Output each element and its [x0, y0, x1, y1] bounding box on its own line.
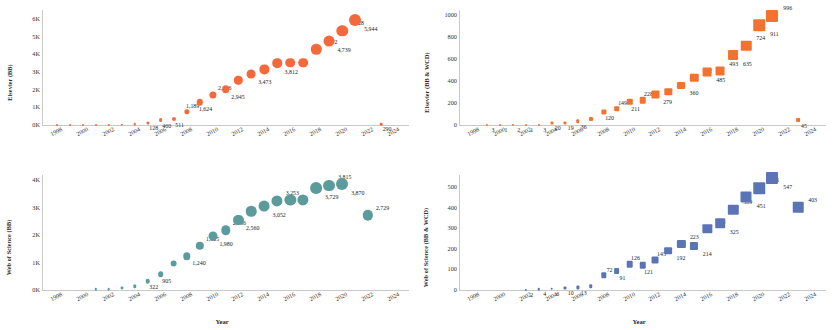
data-point[interactable] [614, 268, 620, 274]
data-point[interactable] [208, 231, 217, 240]
data-point[interactable] [363, 210, 373, 220]
data-point-label: 1 [530, 127, 533, 133]
data-point[interactable] [525, 124, 527, 126]
data-point[interactable] [550, 287, 553, 290]
data-point[interactable] [134, 123, 137, 126]
data-point[interactable] [285, 194, 296, 205]
data-point[interactable] [222, 86, 230, 94]
data-point-label: 2 [517, 127, 520, 133]
data-point[interactable] [195, 241, 203, 249]
data-point[interactable] [626, 261, 633, 268]
data-point[interactable] [716, 67, 725, 76]
data-point[interactable] [601, 273, 606, 278]
data-point[interactable] [690, 73, 698, 81]
data-point[interactable] [234, 76, 242, 84]
data-point[interactable] [563, 286, 566, 289]
data-point[interactable] [146, 121, 149, 124]
data-point[interactable] [753, 19, 765, 31]
data-point-label: 2,560 [246, 225, 259, 231]
data-point[interactable] [728, 205, 738, 215]
data-point[interactable] [298, 194, 309, 205]
x-tick-label: 2000 [75, 125, 89, 137]
x-tick-label: 2000 [492, 290, 506, 302]
data-point[interactable] [589, 117, 593, 121]
data-point-label: 13 [581, 290, 587, 296]
data-point[interactable] [145, 279, 150, 284]
data-point[interactable] [323, 180, 335, 192]
data-point[interactable] [259, 201, 270, 212]
data-point[interactable] [652, 91, 659, 98]
data-point[interactable] [703, 67, 712, 76]
data-point[interactable] [703, 224, 712, 233]
data-point[interactable] [272, 195, 283, 206]
data-point[interactable] [677, 240, 685, 248]
data-point[interactable] [766, 10, 778, 22]
data-point[interactable] [69, 124, 71, 126]
data-point[interactable] [120, 287, 123, 290]
data-point[interactable] [499, 124, 501, 126]
data-point[interactable] [183, 252, 190, 259]
y-tick-label: 1K [10, 103, 40, 110]
data-point[interactable] [133, 285, 137, 289]
data-point[interactable] [665, 88, 672, 95]
data-point[interactable] [324, 36, 335, 47]
x-tick-label: 2012 [230, 290, 244, 302]
data-point[interactable] [690, 242, 698, 250]
data-point[interactable] [286, 58, 296, 68]
data-point[interactable] [665, 247, 673, 255]
data-point[interactable] [56, 124, 58, 126]
data-point[interactable] [82, 124, 84, 126]
data-point[interactable] [753, 182, 765, 194]
data-point[interactable] [336, 178, 348, 190]
data-point[interactable] [221, 225, 230, 234]
data-point[interactable] [209, 91, 216, 98]
data-point[interactable] [793, 202, 804, 213]
data-point[interactable] [796, 118, 800, 122]
data-point[interactable] [576, 286, 579, 289]
y-tick-label: 0K [10, 286, 40, 293]
data-point[interactable] [260, 65, 269, 74]
data-point[interactable] [172, 117, 176, 121]
data-point[interactable] [589, 285, 592, 288]
data-point-label: 72 [607, 267, 613, 273]
data-point[interactable] [715, 218, 725, 228]
data-point[interactable] [184, 109, 189, 114]
data-point[interactable] [614, 106, 620, 112]
data-point[interactable] [247, 69, 256, 78]
data-point[interactable] [298, 58, 308, 68]
data-point[interactable] [170, 260, 177, 267]
data-point[interactable] [728, 50, 738, 60]
data-point[interactable] [158, 271, 164, 277]
data-point[interactable] [310, 182, 322, 194]
data-point[interactable] [639, 97, 646, 104]
data-point[interactable] [677, 82, 685, 90]
data-point-label: 403 [808, 197, 817, 203]
data-point[interactable] [336, 25, 347, 36]
data-point[interactable] [107, 288, 110, 291]
data-point[interactable] [766, 172, 778, 184]
data-point[interactable] [550, 121, 553, 124]
data-point-label: 3,473 [258, 79, 271, 85]
data-point-label: 128 [149, 125, 158, 131]
data-point[interactable] [233, 215, 243, 225]
data-point[interactable] [639, 262, 645, 268]
x-tick-label: 2022 [360, 290, 374, 302]
data-point[interactable] [273, 59, 283, 69]
data-point[interactable] [601, 109, 606, 114]
data-point[interactable] [159, 118, 163, 122]
data-point[interactable] [741, 192, 752, 203]
data-point[interactable] [576, 119, 580, 123]
data-point-label: 2,945 [231, 94, 244, 100]
data-point[interactable] [626, 99, 632, 105]
data-point[interactable] [652, 257, 659, 264]
y-tick-label: 4K [10, 176, 40, 183]
x-tick-label: 2018 [725, 125, 739, 137]
y-tick-label: 1K [10, 259, 40, 266]
data-point[interactable] [246, 206, 257, 217]
data-point[interactable] [380, 123, 383, 126]
data-point[interactable] [741, 40, 751, 50]
data-point[interactable] [196, 99, 202, 105]
data-point[interactable] [311, 44, 321, 54]
data-point[interactable] [349, 14, 361, 26]
data-point[interactable] [563, 121, 566, 124]
